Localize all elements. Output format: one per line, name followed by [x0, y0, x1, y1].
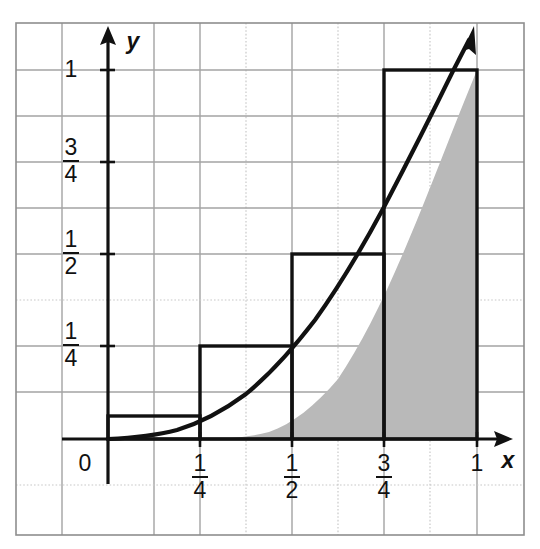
y-tick-label-1-2: 1 2: [54, 228, 88, 278]
fraction-numerator: 3: [376, 452, 393, 475]
x-tick-label-1-4: 1 4: [183, 452, 217, 502]
y-tick-label-1-4: 1 4: [54, 320, 88, 370]
fraction-denominator: 2: [63, 255, 80, 278]
fraction-denominator: 2: [284, 479, 301, 502]
fraction-numerator: 3: [63, 136, 80, 159]
fraction-denominator: 4: [63, 347, 80, 370]
x-tick-label-1: 1: [462, 452, 492, 475]
fraction-denominator: 4: [192, 479, 209, 502]
x-tick-label-3-4: 3 4: [367, 452, 401, 502]
origin-label: 0: [70, 452, 100, 475]
fraction-numerator: 1: [63, 228, 80, 251]
fraction-numerator: 1: [192, 452, 209, 475]
fraction-numerator: 1: [63, 320, 80, 343]
y-axis-label: y: [120, 30, 146, 53]
fraction-numerator: 1: [284, 452, 301, 475]
y-tick-label-3-4: 3 4: [54, 136, 88, 186]
fraction-denominator: 4: [376, 479, 393, 502]
fraction-denominator: 4: [63, 163, 80, 186]
x-tick-label-1-2: 1 2: [275, 452, 309, 502]
y-tick-label-1: 1: [56, 58, 86, 81]
riemann-sum-figure: 1 3 4 1 2 1 4 1 4 1 2: [0, 0, 540, 549]
x-axis-label: x: [495, 449, 521, 472]
